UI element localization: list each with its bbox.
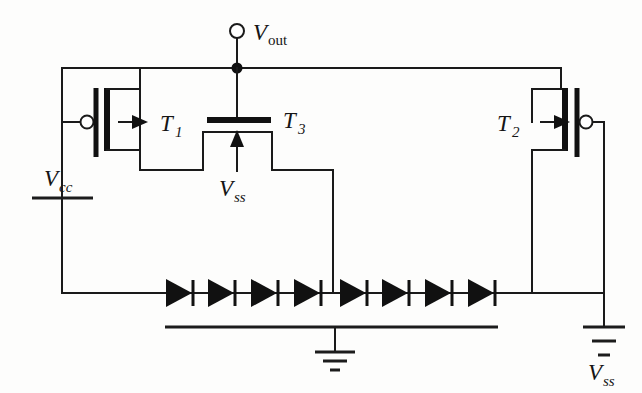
diode-3 (251, 279, 278, 307)
t2-label: T (497, 111, 512, 136)
circuit-schematic-svg: V out T 1 (0, 0, 642, 393)
diode-3-triangle-icon (251, 279, 277, 307)
vcc-label-subscript: cc (59, 179, 73, 195)
vss-right-label-subscript: ss (603, 373, 615, 389)
diode-4-triangle-icon (294, 279, 320, 307)
vss-mid-label-subscript: ss (234, 189, 246, 205)
t1-label-subscript: 1 (175, 124, 183, 140)
diode-2 (208, 279, 235, 307)
ground-group (165, 327, 498, 370)
t3-label-subscript: 3 (297, 121, 306, 137)
diode-8 (468, 279, 495, 307)
transistor-t1-group: T 1 (62, 68, 183, 170)
diode-6 (382, 279, 409, 307)
vout-open-circle-icon (230, 24, 244, 38)
vss-source-group: V ss (583, 293, 625, 389)
diode-5-triangle-icon (340, 279, 366, 307)
circuit-diagram-canvas: V out T 1 (0, 0, 642, 393)
diode-6-triangle-icon (382, 279, 408, 307)
t2-gate-bubble-icon (580, 116, 593, 129)
vout-terminal-group: V out (230, 20, 288, 74)
vcc-source-group: V cc (32, 122, 172, 293)
diode-4 (294, 279, 321, 307)
diode-1 (166, 279, 193, 307)
diode-7-triangle-icon (425, 279, 451, 307)
t2-label-subscript: 2 (512, 124, 520, 140)
diode-2-triangle-icon (208, 279, 234, 307)
diode-7 (425, 279, 452, 307)
transistor-t2-group: T 2 (497, 68, 604, 293)
t1-gate-bubble-icon (81, 116, 94, 129)
diode-5 (340, 279, 367, 307)
diode-1-triangle-icon (166, 279, 192, 307)
t3-label: T (283, 108, 298, 133)
vout-label-subscript: out (268, 32, 288, 48)
transistor-t3-group: T 3 V ss (140, 68, 333, 293)
t1-label: T (160, 111, 175, 136)
diode-8-triangle-icon (468, 279, 494, 307)
